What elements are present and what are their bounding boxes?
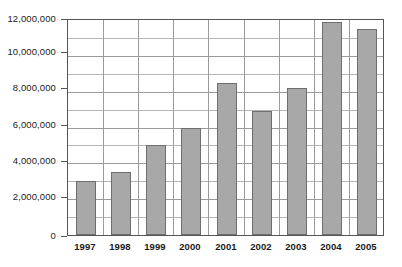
bars-layer bbox=[68, 20, 383, 235]
x-axis-label-2002: 2002 bbox=[241, 241, 281, 252]
y-axis-label-2000000: 2,000,000 bbox=[13, 192, 56, 202]
bar-chart: 0 2,000,000 4,000,000 6,000,000 8,000,00… bbox=[0, 0, 402, 267]
x-axis-label-2003: 2003 bbox=[276, 241, 316, 252]
bar-2003 bbox=[287, 88, 307, 235]
bar-2000 bbox=[181, 128, 201, 236]
x-axis-label-2000: 2000 bbox=[170, 241, 210, 252]
y-axis-label-0: 0 bbox=[51, 231, 56, 241]
x-axis-label-1997: 1997 bbox=[65, 241, 105, 252]
y-axis-label-8000000: 8,000,000 bbox=[13, 83, 56, 93]
x-axis-label-1999: 1999 bbox=[135, 241, 175, 252]
bar-1997 bbox=[76, 181, 96, 235]
y-axis-label-6000000: 6,000,000 bbox=[13, 120, 56, 130]
x-axis-label-2005: 2005 bbox=[346, 241, 386, 252]
y-axis-tick-0 bbox=[61, 236, 67, 237]
bar-2001 bbox=[217, 83, 237, 235]
y-axis-label-12000000: 12,000,000 bbox=[7, 14, 56, 24]
bar-2004 bbox=[322, 22, 342, 235]
y-axis-label-10000000: 10,000,000 bbox=[7, 47, 56, 57]
plot-area bbox=[67, 19, 384, 236]
bar-1998 bbox=[111, 172, 131, 235]
bar-2005 bbox=[357, 29, 377, 235]
x-axis-label-1998: 1998 bbox=[100, 241, 140, 252]
bar-2002 bbox=[252, 111, 272, 235]
x-axis-label-2004: 2004 bbox=[311, 241, 351, 252]
bar-1999 bbox=[146, 145, 166, 235]
x-axis-label-2001: 2001 bbox=[206, 241, 246, 252]
y-axis-label-4000000: 4,000,000 bbox=[13, 156, 56, 166]
